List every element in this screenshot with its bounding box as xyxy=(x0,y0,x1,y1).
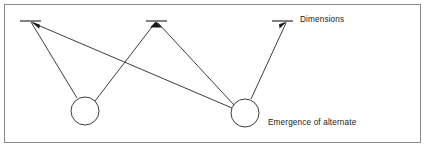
emergence-label-line-2: combinations xyxy=(268,150,372,151)
connection-right-circle-to-left-dimension xyxy=(33,23,232,108)
combination-node-left-circle xyxy=(71,97,99,125)
arrowhead-right-dimension-icon xyxy=(279,22,287,29)
arrowhead-left-dimension-icon xyxy=(31,22,40,29)
emergence-label: Emergence of alternate combinations of d… xyxy=(268,97,372,150)
figure-root: Dimensions Emergence of alternate combin… xyxy=(0,0,427,150)
dimensions-label: Dimensions xyxy=(300,15,344,26)
arrowhead-middle-dimension-icon xyxy=(150,22,162,28)
connection-left-circle-to-left-dimension xyxy=(31,22,77,98)
connection-lines xyxy=(31,22,286,108)
combination-node-right-circle xyxy=(231,99,259,127)
connection-right-circle-to-right-dimension xyxy=(251,23,286,99)
emergence-label-line-1: Emergence of alternate xyxy=(268,118,372,129)
arrowheads xyxy=(31,22,287,29)
